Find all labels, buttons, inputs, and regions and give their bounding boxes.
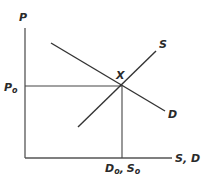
x-axis-label: S, D (175, 152, 200, 165)
equilibrium-quantity-label: Do,So (105, 162, 141, 176)
supply-label: S (159, 38, 167, 51)
y-axis-label: P (19, 11, 27, 24)
price-label-main: P (4, 81, 12, 94)
quantity-label-s-main: S (127, 162, 135, 175)
supply-demand-diagram: P S, D D S X Po Do,So (0, 0, 206, 186)
quantity-label-s-sub: o (135, 167, 141, 176)
quantity-label-sep: , (119, 162, 124, 175)
quantity-label-d-main: D (105, 162, 114, 175)
demand-label: D (168, 108, 177, 121)
supply-curve (78, 51, 156, 127)
price-label-sub: o (12, 86, 18, 95)
demand-curve (51, 43, 165, 111)
equilibrium-price-label: Po (4, 81, 18, 95)
equilibrium-point-label: X (115, 69, 125, 82)
